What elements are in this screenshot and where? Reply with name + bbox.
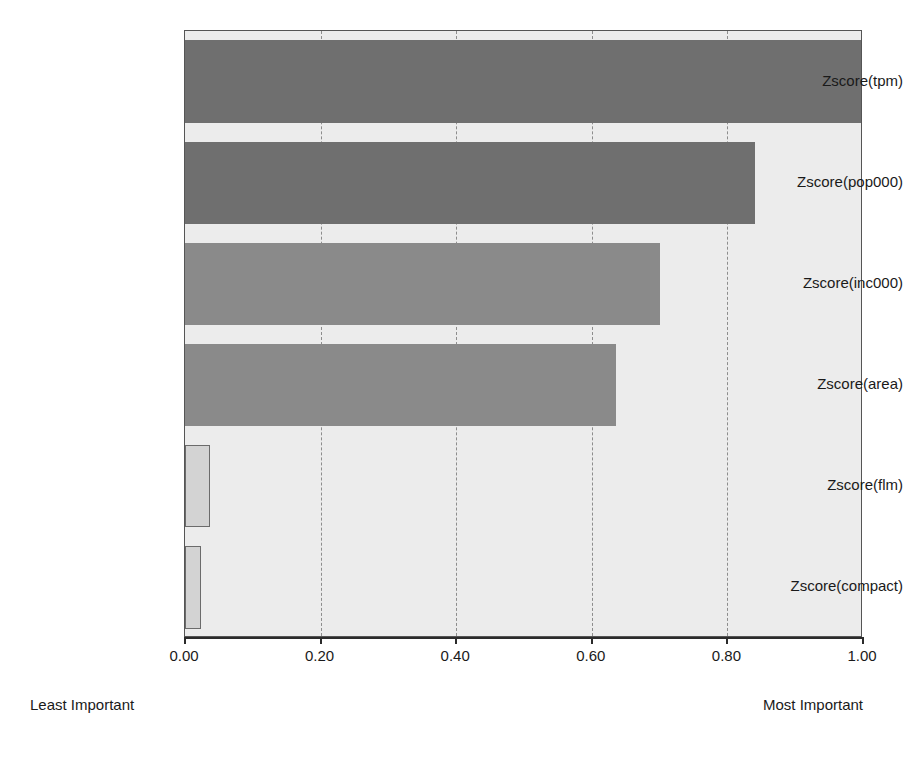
x-axis-line — [184, 637, 862, 639]
x-tick-label-1.00: 1.00 — [847, 648, 876, 664]
category-label-1: Zscore(pop000) — [739, 174, 913, 189]
bar-zscorecompact — [185, 546, 201, 628]
bar-zscoreinc000 — [185, 243, 660, 325]
category-label-3: Zscore(area) — [739, 376, 913, 391]
bar-zscoreflm — [185, 445, 210, 527]
x-tick-label-0.80: 0.80 — [712, 648, 741, 664]
x-tick-0.40 — [455, 637, 457, 644]
x-tick-label-0.60: 0.60 — [576, 648, 605, 664]
category-label-0: Zscore(tpm) — [739, 73, 913, 88]
bar-zscorepop000 — [185, 142, 755, 224]
category-label-4: Zscore(flm) — [739, 477, 913, 492]
bar-zscorearea — [185, 344, 616, 426]
importance-bar-chart: Zscore(tpm)Zscore(pop000)Zscore(inc000)Z… — [0, 0, 913, 766]
plot-area — [184, 30, 862, 637]
x-tick-0.20 — [320, 637, 322, 644]
x-tick-1.00 — [862, 637, 864, 644]
most-important-caption: Most Important — [763, 696, 863, 713]
category-label-2: Zscore(inc000) — [739, 275, 913, 290]
x-tick-0.80 — [726, 637, 728, 644]
x-tick-0.00 — [184, 637, 186, 644]
x-tick-label-0.40: 0.40 — [441, 648, 470, 664]
x-tick-0.60 — [591, 637, 593, 644]
category-label-5: Zscore(compact) — [739, 578, 913, 593]
x-tick-label-0.20: 0.20 — [305, 648, 334, 664]
x-tick-label-0.00: 0.00 — [169, 648, 198, 664]
least-important-caption: Least Important — [30, 696, 134, 713]
